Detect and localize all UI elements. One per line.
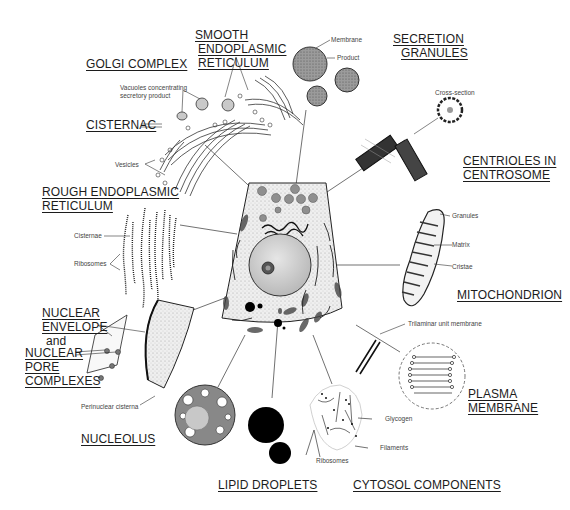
sublabel-ribosomes-cytosol: Ribosomes xyxy=(316,457,349,465)
cell-body xyxy=(222,183,343,333)
label-line: RETICULUM xyxy=(198,56,286,70)
sublabel-vacuoles: Vacuoles concentrating secretory product xyxy=(120,84,187,100)
label-line: COMPLEXES xyxy=(25,374,101,388)
label-line: NUCLEAR xyxy=(42,306,108,320)
cell-diagram: SMOOTH ENDOPLASMIC RETICULUM GOLGI COMPL… xyxy=(0,0,570,510)
label-centrioles: CENTRIOLES IN CENTROSOME xyxy=(463,154,556,182)
sublabel-cross-section: Cross-section xyxy=(435,89,475,97)
label-line: NUCLEAR xyxy=(25,346,101,360)
sublabel-glycogen: Glycogen xyxy=(385,415,412,423)
centrioles-drawing xyxy=(356,98,462,181)
label-line: ENVELOPE xyxy=(42,320,108,334)
secretion-granules-drawing xyxy=(293,40,359,106)
label-rough-er: ROUGH ENDOPLASMIC RETICULUM xyxy=(42,185,179,213)
label-line: PORE xyxy=(25,360,101,374)
nucleolus-drawing xyxy=(175,385,235,445)
label-line: CENTRIOLES IN xyxy=(463,154,556,168)
sublabel-perinuclear: Perinuclear cisterna xyxy=(81,403,138,411)
sublabel-granules: Granules xyxy=(452,212,478,220)
sublabel-filaments: Filaments xyxy=(380,444,408,452)
label-cytosol-components: CYTOSOL COMPONENTS xyxy=(353,478,501,492)
sublabel-matrix: Matrix xyxy=(452,241,470,249)
lipid-droplets-drawing xyxy=(248,407,291,464)
sublabel-line: secretory product xyxy=(120,92,187,100)
cytosol-drawing xyxy=(306,385,372,457)
sublabel-line: Vacuoles concentrating xyxy=(120,84,187,92)
sublabel-vesicles: Vesicles xyxy=(115,161,139,169)
label-line: GRANULES xyxy=(401,46,468,60)
label-lipid-droplets: LIPID DROPLETS xyxy=(218,478,317,492)
label-line: RETICULUM xyxy=(42,199,179,213)
label-line: SMOOTH xyxy=(195,28,286,42)
sublabel-membrane: Membrane xyxy=(331,36,362,44)
label-line: MEMBRANE xyxy=(468,401,538,415)
mitochondrion-drawing xyxy=(402,210,452,306)
label-nucleolus: NUCLEOLUS xyxy=(81,432,155,446)
sublabel-product: Product xyxy=(337,54,359,62)
plasma-membrane-drawing xyxy=(356,324,465,409)
label-line: PLASMA xyxy=(468,387,538,401)
sublabel-ribosomes-rer: Ribosomes xyxy=(74,260,107,268)
label-plasma-membrane: PLASMA MEMBRANE xyxy=(468,387,538,415)
label-nuclear-pore-complexes: NUCLEAR PORE COMPLEXES xyxy=(25,346,101,388)
label-line: SECRETION xyxy=(393,32,468,46)
label-nuclear-envelope: NUCLEAR ENVELOPE xyxy=(42,306,108,334)
label-mitochondrion: MITOCHONDRION xyxy=(457,288,562,302)
label-line: CENTROSOME xyxy=(463,168,556,182)
sublabel-cristae: Cristae xyxy=(452,263,473,271)
label-line: ROUGH ENDOPLASMIC xyxy=(42,185,179,199)
label-golgi-complex: GOLGI COMPLEX xyxy=(86,57,187,71)
sublabel-trilaminar: Trilaminar unit membrane xyxy=(408,320,482,328)
label-cisternac: CISTERNAC xyxy=(86,118,156,132)
label-line: ENDOPLASMIC xyxy=(198,42,286,56)
rough-er-drawing xyxy=(124,208,177,312)
label-secretion-granules: SECRETION GRANULES xyxy=(393,32,468,60)
label-smooth-er: SMOOTH ENDOPLASMIC RETICULUM xyxy=(195,28,286,70)
sublabel-cisternae: Cisternae xyxy=(74,232,102,240)
